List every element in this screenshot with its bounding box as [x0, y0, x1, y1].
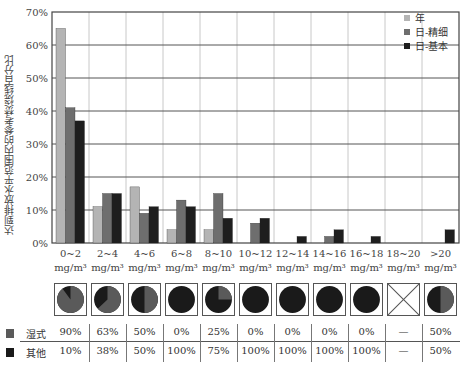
table-cell: 0% [237, 326, 274, 337]
bar [445, 230, 455, 243]
table-cell: 25% [200, 326, 237, 337]
legend-swatch [6, 329, 14, 338]
table-col-separator [237, 324, 238, 362]
y-axis-label: 达到排放水平范围内的参考焚烧线百分比 [2, 40, 22, 250]
legend-swatch [404, 15, 410, 21]
bar [56, 29, 66, 244]
bar-chart: 达到排放水平范围内的参考焚烧线百分比 0%10%20%30%40%50%60%7… [0, 0, 470, 280]
table-cell: 100% [237, 345, 274, 356]
y-tick-label: 50% [26, 73, 48, 84]
x-tick-label: 8~10 [205, 248, 232, 259]
bar [260, 218, 270, 243]
row-label-text: 其他 [26, 345, 46, 360]
pie-row [52, 283, 460, 323]
bar [75, 121, 85, 243]
y-tick-label: 10% [26, 205, 48, 216]
table-row-label: 湿式 [6, 326, 46, 341]
x-tick-label: 10~12 [239, 248, 273, 259]
empty-pie-box [387, 283, 420, 316]
x-tick-unit: mg/m³ [91, 262, 124, 273]
table-col-separator [311, 324, 312, 362]
x-tick-unit: mg/m³ [165, 262, 198, 273]
table-cell: 100% [163, 345, 200, 356]
x-tick-label: 14~16 [313, 248, 347, 259]
pie-chart [91, 283, 124, 316]
x-tick-unit: mg/m³ [276, 262, 309, 273]
bar [325, 236, 335, 243]
table-cell: 50% [126, 326, 163, 337]
table-cell: 100% [274, 345, 311, 356]
table-cell: 63% [89, 326, 126, 337]
pie-chart [202, 283, 235, 316]
table-cell: 50% [126, 345, 163, 356]
bar [167, 230, 177, 243]
legend-swatch [6, 348, 14, 357]
x-tick-label: 18~20 [387, 248, 421, 259]
table-cell: — [385, 326, 422, 337]
pie-chart [276, 283, 309, 316]
table-row-label: 其他 [6, 345, 46, 360]
pie-chart [350, 283, 383, 316]
table-cell: 10% [52, 345, 89, 356]
y-tick-label: 60% [26, 40, 48, 51]
pie-chart [239, 283, 272, 316]
pie-chart [165, 283, 198, 316]
table-cell: 0% [274, 326, 311, 337]
x-tick-unit: mg/m³ [54, 262, 87, 273]
table-cell: — [385, 345, 422, 356]
bar [140, 213, 150, 243]
table-col-separator [163, 324, 164, 362]
x-tick-label: 12~14 [276, 248, 310, 259]
table-col-separator [126, 324, 127, 362]
table-col-separator [200, 324, 201, 362]
bar [149, 207, 159, 243]
bar [66, 108, 76, 243]
x-tick-unit: mg/m³ [387, 262, 420, 273]
table-cell: 38% [89, 345, 126, 356]
y-tick-label: 70% [26, 7, 48, 18]
row-label-text: 湿式 [26, 326, 46, 341]
bar [177, 200, 187, 243]
bar [214, 194, 224, 244]
table-cell: 50% [422, 345, 459, 356]
legend-label: 日-精细 [415, 26, 448, 38]
table-col-separator [422, 324, 423, 362]
pie-chart [54, 283, 87, 316]
x-tick-label: 16~18 [350, 248, 384, 259]
x-tick-label: 0~2 [60, 248, 81, 259]
legend-label: 日-基本 [415, 40, 448, 52]
table-col-separator [348, 324, 349, 362]
x-tick-label: >20 [430, 248, 451, 259]
table-col-separator [274, 324, 275, 362]
table-cell: 0% [311, 326, 348, 337]
bar [204, 230, 214, 243]
x-tick-label: 4~6 [134, 248, 155, 259]
table-cell: 50% [422, 326, 459, 337]
x-tick-unit: mg/m³ [313, 262, 346, 273]
table-cell: 100% [348, 345, 385, 356]
table-cell: 0% [163, 326, 200, 337]
x-tick-unit: mg/m³ [350, 262, 383, 273]
y-tick-label: 30% [26, 139, 48, 150]
legend-label: 年 [415, 12, 425, 24]
bar [334, 230, 344, 243]
bar [297, 236, 307, 243]
pie-chart [128, 283, 161, 316]
table-cell: 90% [52, 326, 89, 337]
x-tick-label: 2~4 [97, 248, 118, 259]
legend-swatch [404, 29, 410, 35]
table-col-separator [385, 324, 386, 362]
table-col-separator [89, 324, 90, 362]
table-divider [20, 341, 460, 342]
bar [112, 194, 122, 244]
chart-plot: 0%10%20%30%40%50%60%70%0~2mg/m³2~4mg/m³4… [0, 0, 470, 280]
bar [371, 236, 381, 243]
y-tick-label: 40% [26, 106, 48, 117]
pie-chart [424, 283, 457, 316]
table-cell: 75% [200, 345, 237, 356]
x-tick-label: 6~8 [171, 248, 192, 259]
bar [130, 187, 140, 243]
y-tick-label: 20% [26, 172, 48, 183]
bar [186, 207, 196, 243]
bar [223, 218, 233, 243]
